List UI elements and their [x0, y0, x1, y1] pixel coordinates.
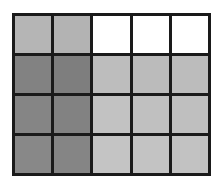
- grid-cell-r0-c3: [133, 16, 169, 53]
- grid-cell-r3-c3: [133, 136, 169, 173]
- grid-cell-r2-c3: [133, 96, 169, 133]
- grid-cell-r2-c1: [54, 96, 90, 133]
- grid-cell-r3-c2: [93, 136, 129, 173]
- grid-cell-r0-c0: [15, 16, 51, 53]
- grid-cell-r2-c4: [172, 96, 208, 133]
- grid-cell-r0-c1: [54, 16, 90, 53]
- grid-cell-r1-c0: [15, 56, 51, 93]
- grid-cell-r3-c4: [172, 136, 208, 173]
- grid-cell-r1-c2: [93, 56, 129, 93]
- grid-cell-r1-c3: [133, 56, 169, 93]
- grid-cell-r2-c0: [15, 96, 51, 133]
- grid-cell-r3-c1: [54, 136, 90, 173]
- grid-cell-r1-c4: [172, 56, 208, 93]
- grid-cell-r2-c2: [93, 96, 129, 133]
- grid-cell-r0-c4: [172, 16, 208, 53]
- shaded-grid: [12, 13, 211, 176]
- grid-cell-r1-c1: [54, 56, 90, 93]
- grid-cell-r0-c2: [93, 16, 129, 53]
- grid-cell-r3-c0: [15, 136, 51, 173]
